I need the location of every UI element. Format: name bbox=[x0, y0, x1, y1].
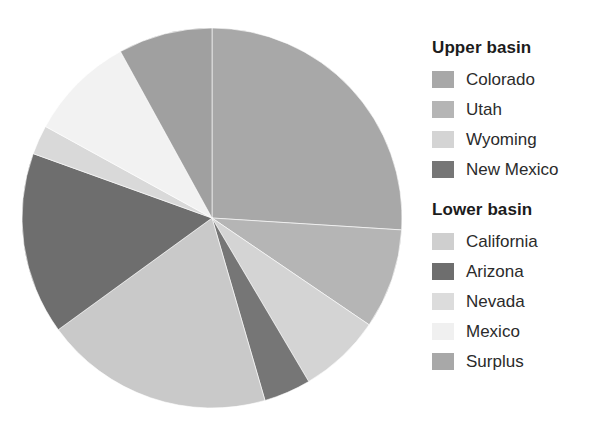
legend-item-new-mexico[interactable]: New Mexico bbox=[424, 154, 594, 184]
legend-swatch-icon-wyoming bbox=[432, 131, 454, 148]
legend-item-label: Surplus bbox=[466, 353, 524, 370]
pie-chart-svg bbox=[0, 0, 420, 423]
legend-swatch-icon-nevada bbox=[432, 293, 454, 310]
legend-swatch-icon-surplus bbox=[432, 353, 454, 370]
legend-group-title-lower-basin: Lower basin bbox=[432, 200, 594, 220]
legend-item-label: Wyoming bbox=[466, 131, 537, 148]
legend-item-mexico[interactable]: Mexico bbox=[424, 316, 594, 346]
pie-chart-figure: Upper basinColoradoUtahWyomingNew Mexico… bbox=[0, 0, 594, 423]
pie-chart-plot-area bbox=[0, 0, 420, 423]
legend-item-label: New Mexico bbox=[466, 161, 559, 178]
legend-swatch-icon-arizona bbox=[432, 263, 454, 280]
legend-item-label: Colorado bbox=[466, 71, 535, 88]
legend-swatch-icon-utah bbox=[432, 101, 454, 118]
legend-group-title-upper-basin: Upper basin bbox=[432, 38, 594, 58]
legend-swatch-icon-colorado bbox=[432, 71, 454, 88]
legend-item-nevada[interactable]: Nevada bbox=[424, 286, 594, 316]
legend-item-label: Mexico bbox=[466, 323, 520, 340]
legend-swatch-icon-california bbox=[432, 233, 454, 250]
legend-item-label: Utah bbox=[466, 101, 502, 118]
legend-item-label: California bbox=[466, 233, 538, 250]
chart-legend: Upper basinColoradoUtahWyomingNew Mexico… bbox=[420, 0, 594, 423]
legend-item-california[interactable]: California bbox=[424, 226, 594, 256]
legend-item-arizona[interactable]: Arizona bbox=[424, 256, 594, 286]
pie-slice-colorado[interactable] bbox=[212, 28, 402, 230]
legend-groups: Upper basinColoradoUtahWyomingNew Mexico… bbox=[424, 38, 594, 376]
legend-item-utah[interactable]: Utah bbox=[424, 94, 594, 124]
legend-item-wyoming[interactable]: Wyoming bbox=[424, 124, 594, 154]
legend-swatch-icon-mexico bbox=[432, 323, 454, 340]
legend-item-surplus[interactable]: Surplus bbox=[424, 346, 594, 376]
legend-item-colorado[interactable]: Colorado bbox=[424, 64, 594, 94]
legend-item-label: Nevada bbox=[466, 293, 525, 310]
legend-item-label: Arizona bbox=[466, 263, 524, 280]
legend-swatch-icon-new-mexico bbox=[432, 161, 454, 178]
